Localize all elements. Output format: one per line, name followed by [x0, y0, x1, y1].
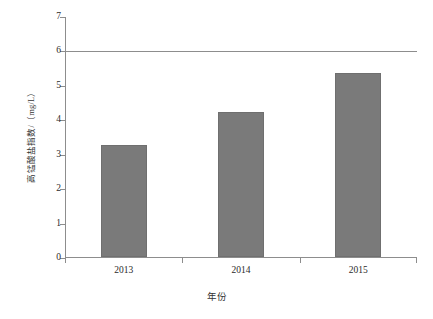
bar [218, 112, 264, 257]
x-axis-category-label: 2013 [94, 264, 154, 277]
x-axis-title-text: 年份 [207, 292, 227, 302]
x-axis-tick-mark [182, 258, 183, 263]
x-axis-category-label: 2015 [328, 264, 388, 277]
y-axis-tick-label: 4 [56, 113, 61, 126]
y-axis-tick-label: 7 [56, 10, 61, 23]
x-axis-title: 年份 [0, 289, 433, 303]
y-axis-tick-label: 5 [56, 79, 61, 92]
y-axis-tick-label: 3 [56, 148, 61, 161]
bar [335, 73, 381, 257]
bar [101, 145, 147, 257]
plot-area: 01234567 201320142015 [65, 17, 417, 258]
y-axis-tick-label: 1 [56, 217, 61, 230]
x-axis-tick-mark [300, 258, 301, 263]
x-axis-line [65, 257, 417, 258]
x-axis-tick-mark [65, 258, 66, 263]
bar-chart: 高锰酸盐指数/（mg/L） 01234567 201320142015 年份 [0, 0, 433, 319]
y-axis-tick-label: 2 [56, 182, 61, 195]
y-axis-title: 高锰酸盐指数/（mg/L） [22, 60, 38, 210]
y-axis-tick-label: 0 [56, 251, 61, 264]
x-axis-category-label: 2014 [211, 264, 271, 277]
y-axis-tick-label: 6 [56, 44, 61, 57]
y-axis-title-text: 高锰酸盐指数/（mg/L） [24, 87, 36, 182]
x-axis-tick-mark [416, 258, 417, 263]
y-axis-line [65, 17, 66, 258]
reference-line [65, 51, 417, 52]
